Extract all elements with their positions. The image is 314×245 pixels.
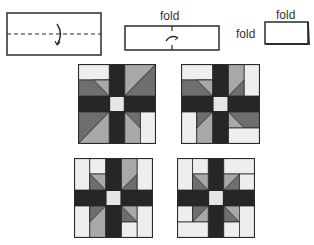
fold-diagram-rectangle bbox=[6, 12, 102, 56]
quilt-block-3 bbox=[74, 158, 153, 238]
fold-diagram-strip bbox=[124, 25, 220, 51]
quilt-block-4 bbox=[177, 158, 255, 238]
fold-step-1 bbox=[6, 12, 102, 56]
quilt-block-1 bbox=[78, 64, 156, 144]
fold-label-step-3-left: fold bbox=[236, 28, 255, 40]
quilt-block-2 bbox=[181, 64, 260, 144]
fold-step-3 bbox=[264, 21, 310, 46]
fold-label-step-3-top: fold bbox=[276, 9, 295, 21]
fold-step-2 bbox=[124, 25, 220, 51]
fold-label-step-2: fold bbox=[160, 10, 179, 22]
fold-diagram-square bbox=[264, 21, 310, 46]
